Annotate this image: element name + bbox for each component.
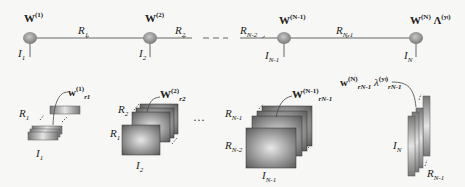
tensor-2 [122,97,178,155]
dim-label-rn-2: RN-2 [225,140,242,154]
node-2 [143,32,157,44]
tensor-label-1: w(1)r1 [68,86,90,101]
index-label-n-1: IN-1 [265,50,279,64]
dim-label-in-1: IN-1 [262,170,276,184]
dim-label-rn-1b: RN-1 [427,168,444,182]
node-n-1 [277,32,291,44]
core-label-n: W(N) Λ(yₗ) [410,14,451,26]
tensor-n [392,82,430,176]
dim-label-i1: I1 [36,148,43,162]
core-label-1: W(1) [24,12,43,24]
node-n [409,32,423,44]
tensor-label-n: w(N)rN-1 λ(yₗ)rN-1 [340,76,402,91]
index-label-n: IN [404,50,412,64]
edge-label-n-1: RN-1 [336,25,353,39]
edge-label-2: R2 [175,25,185,39]
dim-label-r1: R1 [19,108,29,122]
tensor-label-2: W(2)r2 [160,88,185,103]
dim-label-i2: I2 [136,160,143,174]
index-label-2: I2 [139,48,146,62]
core-label-n-1: W(N-1) [279,14,306,26]
tensor-n-1 [246,96,312,168]
edge-label-1: R1 [78,25,88,39]
edge-label-n-2: RN-2 [240,25,257,39]
index-label-1: I1 [18,48,25,62]
node-1 [23,32,37,44]
dim-label-rn-1: RN-1 [225,108,242,122]
dim-label-in: IN [393,140,401,154]
core-label-2: W(2) [145,12,164,24]
tensor-label-n-1: W(N-1)rN-1 [292,88,332,103]
dim-label-r2: R2 [118,104,128,118]
ellipsis-mid: ··· [193,113,205,127]
dim-label-r1b: R1 [110,128,120,142]
